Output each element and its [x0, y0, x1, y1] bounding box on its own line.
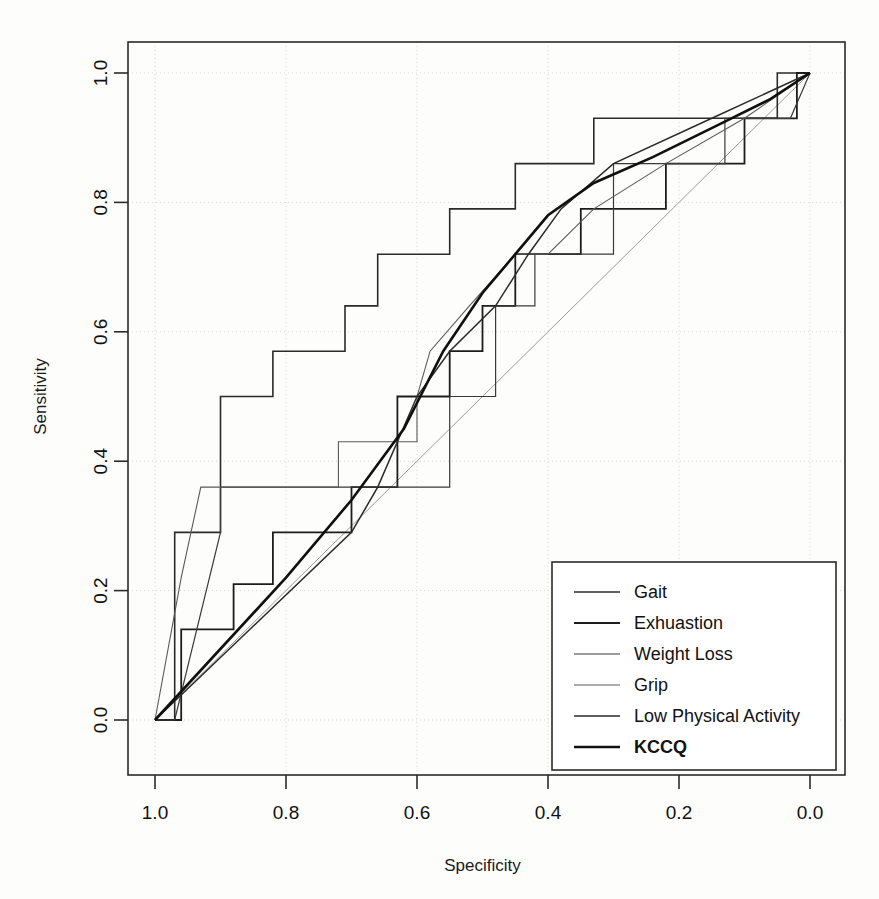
y-tick-label: 1.0: [90, 60, 111, 86]
legend-label-weight-loss: Weight Loss: [634, 644, 733, 664]
y-tick-label: 0.4: [90, 448, 111, 475]
y-axis-title: Sensitivity: [31, 358, 50, 435]
x-tick-label: 0.6: [404, 802, 430, 823]
x-tick-label: 1.0: [142, 802, 168, 823]
legend: GaitExhuastionWeight LossGripLow Physica…: [552, 562, 836, 770]
roc-curve-plot: 1.00.80.60.40.20.00.00.20.40.60.81.0Spec…: [0, 0, 879, 899]
roc-chart-figure: 1.00.80.60.40.20.00.00.20.40.60.81.0Spec…: [0, 0, 879, 899]
x-tick-label: 0.4: [535, 802, 562, 823]
y-tick-label: 0.6: [90, 319, 111, 345]
y-tick-label: 0.8: [90, 189, 111, 215]
x-tick-label: 0.8: [273, 802, 299, 823]
y-tick-label: 0.2: [90, 577, 111, 603]
x-tick-label: 0.0: [797, 802, 823, 823]
legend-label-exhuastion: Exhuastion: [634, 613, 723, 633]
legend-label-grip: Grip: [634, 675, 668, 695]
y-tick-label: 0.0: [90, 707, 111, 733]
legend-label-low-physical-activity: Low Physical Activity: [634, 706, 800, 726]
legend-label-kccq: KCCQ: [634, 737, 687, 757]
x-axis-title: Specificity: [444, 856, 521, 875]
legend-box: [552, 562, 836, 770]
x-tick-label: 0.2: [666, 802, 692, 823]
legend-label-gait: Gait: [634, 582, 667, 602]
